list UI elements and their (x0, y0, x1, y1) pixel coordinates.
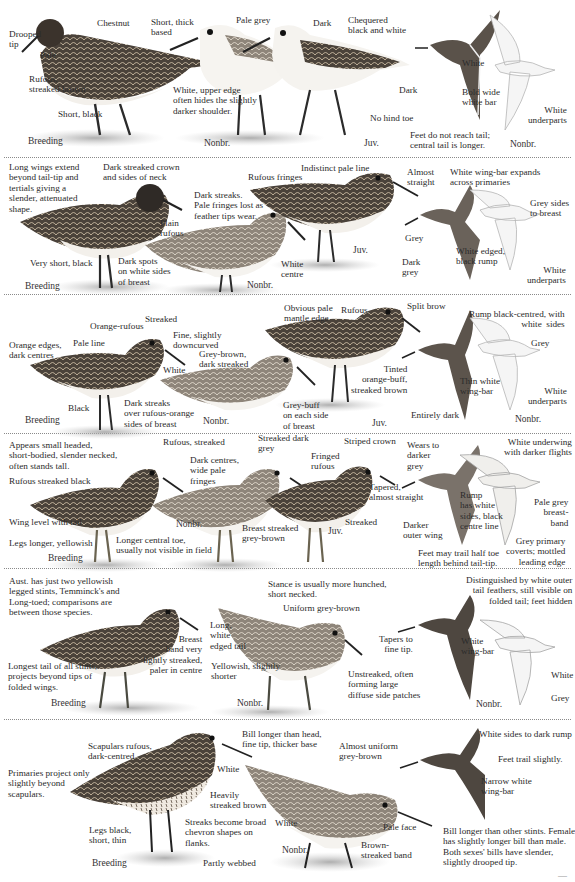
label-split-brow: Split brow (407, 301, 446, 311)
label-almost-uniform: Almost uniform grey-brown (339, 741, 398, 762)
label-unstreaked: Unstreaked, often forming large diffuse … (348, 669, 420, 700)
label-grey-primary: Grey primary coverts; mottled leading ed… (506, 536, 565, 567)
label-feet-note: Feet do not reach tail; central tail is … (410, 130, 490, 151)
field-guide-plate: Chestnut Drooped tip Pale Rufous, streak… (0, 0, 575, 882)
plumage-nonbr: Nonbr. (282, 845, 308, 855)
label-white-underparts: White underparts (528, 105, 567, 126)
plumage-breeding: Breeding (51, 698, 86, 708)
label-streaked-dark-grey: Streaked dark grey (258, 433, 309, 454)
plumage-flight-nonbr: Nonbr. (476, 699, 502, 709)
label-wing-level: Wing level with tail (9, 517, 82, 527)
label-distinguished: Distinguished by white outer tail feathe… (466, 575, 572, 606)
plumage-nonbr: Nonbr. (204, 138, 230, 148)
label-bill-note: Bill longer than other stints. Female ha… (443, 826, 575, 868)
label-legs-longer: Legs longer, yellowish (9, 538, 93, 548)
label-white-upper-edge: White, upper edge often hides the slight… (173, 85, 257, 116)
plumage-flight-nonbr: Nonbr. (515, 414, 541, 424)
plumage-breeding: Breeding (48, 553, 83, 563)
label-grey-buff: Grey-buff on each side of breast (283, 400, 328, 431)
label-legs-black: Legs black, short, thin (89, 825, 131, 846)
label-uniform: Uniform grey-brown (283, 603, 360, 613)
label-pale-line: Pale line (73, 338, 105, 348)
label-bold-white-bar: Bold wide white bar (462, 87, 500, 108)
label-narrow-wingbar: Narrow white wing-bar (481, 776, 532, 797)
label-white: White (462, 58, 484, 68)
label-rufous-fringes: Rufous fringes (248, 172, 302, 182)
plumage-breeding: Breeding (28, 136, 63, 146)
label-rufous-streaked-black: Rufous streaked black (9, 476, 91, 486)
label-chestnut: Chestnut (97, 18, 130, 28)
label-dark-streaks-over: Dark streaks over rufous-orange sides of… (124, 398, 194, 429)
label-wingbar-expands: White wing-bar expands across primaries (450, 167, 540, 188)
label-streaked: Streaked (145, 314, 177, 324)
label-grey: Grey (531, 338, 549, 348)
label-grey: Grey (551, 693, 569, 703)
label-pale: Pale (40, 50, 56, 60)
label-feet-trail-slightly: Feet trail slightly. (498, 754, 562, 764)
label-almost-straight: Almost straight (407, 167, 435, 188)
label-orange-edges: Orange edges, dark centres (9, 340, 62, 361)
label-entirely-dark: Entirely dark (411, 410, 459, 420)
label-short-black: Short, black (58, 109, 102, 119)
label-breast-band: Breast band very lightly streaked, paler… (143, 634, 202, 676)
label-thin-wingbar: Thin white wing-bar (460, 376, 500, 397)
plumage-juv: Juv. (372, 418, 387, 428)
plumage-breeding: Breeding (25, 415, 60, 425)
label-fringed-rufous: Fringed rufous (311, 451, 340, 472)
label-white-centre: White centre (281, 259, 303, 280)
label-rufous-streaked: Rufous, streaked (163, 437, 225, 447)
label-white: White (163, 365, 185, 375)
label-yellowish-shorter: Yellowish, slightly shorter (211, 661, 280, 682)
label-tapers: Tapers to fine tip. (379, 634, 413, 655)
label-rufous-streaked: Rufous, streaked brown (29, 74, 85, 95)
label-rump-black-centred: Rump black-centred, with white sides (469, 309, 565, 330)
label-partly-webbed: Partly webbed (203, 858, 256, 868)
label-primaries: Primaries project only slightly beyond s… (8, 768, 90, 799)
label-dark: Dark (313, 18, 331, 28)
plumage-flight-nonbr: Nonbr. (510, 139, 536, 149)
label-heavily: Heavily streaked brown (210, 790, 266, 811)
label-striped-crown: Striped crown (344, 436, 396, 446)
label-no-hind-toe: No hind toe (370, 113, 413, 123)
label-fine-downcurved: Fine, slightly downcurved (173, 330, 222, 351)
label-longest-tail: Longest tail of all stints, projects bey… (8, 661, 97, 692)
label-tapered: Tapered, almost straight (369, 482, 423, 503)
plumage-breeding: Breeding (92, 858, 127, 868)
label-long-white-tail: Long, white edged tail (210, 620, 246, 651)
plumage-nonbr: Nonbr. (237, 698, 263, 708)
label-short-thick: Short, thick based (151, 17, 194, 38)
label-grey: Grey (405, 233, 423, 243)
label-dark-grey: Dark grey (402, 257, 420, 278)
label-black: Black (68, 403, 89, 413)
label-white-underparts: White underparts (528, 386, 567, 407)
label-darker-outer: Darker outer wing (403, 520, 443, 541)
label-bill-longer-head: Bill longer than head, fine tip, thicker… (242, 729, 322, 750)
label-white-sides-rump: White sides to dark rump (479, 729, 572, 739)
label-chequered: Chequered black and white (348, 15, 406, 36)
label-dark-centres: Dark centres, wide pale fringes (190, 455, 239, 486)
label-white-edged-rump: White edged, black rump (456, 246, 505, 267)
label-dark-wing: Dark (399, 85, 417, 95)
label-white-underparts: White underparts (527, 265, 566, 286)
label-dark-crown: Dark streaked crown and sides of neck (103, 162, 180, 183)
label-drooped-tip: Drooped tip (9, 29, 41, 50)
label-obvious-pale: Obvious pale mantle edge (284, 303, 333, 324)
label-white: White (551, 670, 573, 680)
label-streaked: Streaked (345, 517, 377, 527)
label-indistinct-line: Indistinct pale line (301, 163, 369, 173)
label-feet-trail: Feet may trail half toe length behind ta… (418, 548, 499, 569)
label-pale-grey-band: Pale grey breast- band (534, 497, 568, 528)
label-white2: White (275, 818, 297, 828)
plumage-juv: Juv. (353, 245, 368, 255)
label-rufous: Rufous (341, 305, 368, 315)
plumage-juv: Juv. (328, 526, 343, 536)
label-very-short-black: Very short, black (30, 258, 93, 268)
label-dark-streaks: Dark streaks. Pale fringes lost as feath… (194, 190, 263, 221)
label-white-wingbar: White wing-bar (461, 636, 494, 657)
plumage-nonbr: Nonbr. (247, 280, 273, 290)
label-pale-face: Pale face (383, 822, 416, 832)
plumage-breeding: Breeding (25, 281, 60, 291)
plumage-nonbr: Nonbr. (176, 519, 202, 529)
label-aust-note: Aust. has just two yellowish legged stin… (9, 576, 120, 618)
label-white: White (217, 764, 239, 774)
